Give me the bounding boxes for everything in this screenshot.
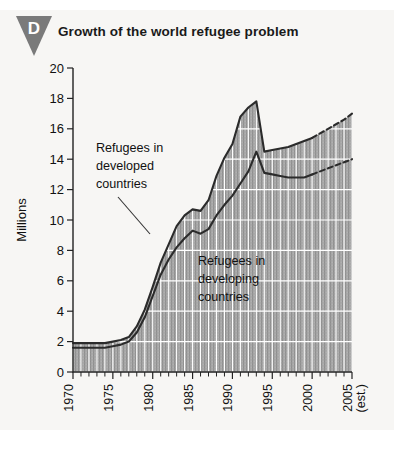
y-tick-label: 8 bbox=[57, 243, 64, 258]
y-axis-title: Millions bbox=[14, 198, 29, 242]
y-tick-label: 20 bbox=[50, 61, 64, 76]
x-tick-label: 2000 bbox=[301, 384, 315, 412]
annotation-developing-line: Refugees in bbox=[198, 254, 265, 268]
annotation-developed-line: developed bbox=[96, 159, 154, 173]
x-tick-label: 1975 bbox=[102, 384, 116, 412]
annotation-developing-line: countries bbox=[198, 290, 249, 304]
annotation-developed-leader bbox=[118, 197, 150, 234]
y-tick-label: 16 bbox=[50, 121, 64, 136]
x-tick-label: 1970 bbox=[62, 384, 76, 412]
page-bottom-margin bbox=[0, 430, 394, 458]
annotation-developing-line: developing bbox=[198, 272, 259, 286]
x-tick-label: 1980 bbox=[142, 384, 156, 412]
y-tick-label: 10 bbox=[50, 213, 64, 228]
y-tick-label: 2 bbox=[57, 334, 64, 349]
refugee-area-chart: 0246810121416182019701975198019851990199… bbox=[0, 52, 394, 430]
x-tick-label-suffix: (est.) bbox=[354, 384, 368, 412]
annotation-developed-line: countries bbox=[96, 177, 147, 191]
x-tick-label: 1985 bbox=[182, 384, 196, 412]
y-tick-label: 12 bbox=[50, 182, 64, 197]
chart-area: 0246810121416182019701975198019851990199… bbox=[0, 52, 394, 430]
y-tick-label: 6 bbox=[57, 273, 64, 288]
figure-badge-letter: D bbox=[16, 19, 52, 39]
y-tick-label: 4 bbox=[57, 304, 64, 319]
page-title: Growth of the world refugee problem bbox=[58, 24, 299, 39]
figure-badge: D bbox=[16, 16, 52, 56]
y-tick-label: 14 bbox=[50, 152, 64, 167]
x-tick-label: 1990 bbox=[221, 384, 235, 412]
figure-container: D Growth of the world refugee problem 02… bbox=[0, 0, 394, 458]
x-tick-label: 2005 bbox=[341, 384, 355, 412]
y-tick-label: 18 bbox=[50, 91, 64, 106]
x-tick-label: 1995 bbox=[261, 384, 275, 412]
y-tick-label: 0 bbox=[57, 365, 64, 380]
page-top-margin bbox=[0, 0, 394, 10]
annotation-developed-line: Refugees in bbox=[96, 141, 163, 155]
figure-header: D Growth of the world refugee problem bbox=[0, 10, 394, 58]
